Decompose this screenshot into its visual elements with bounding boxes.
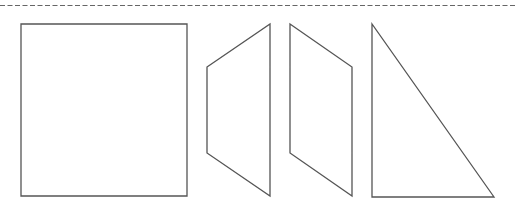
trapezoid-left-shape bbox=[207, 24, 270, 196]
right-triangle-shape bbox=[372, 24, 494, 197]
square-shape bbox=[21, 24, 187, 196]
shapes-diagram bbox=[0, 0, 529, 209]
trapezoid-right-shape bbox=[290, 24, 352, 196]
